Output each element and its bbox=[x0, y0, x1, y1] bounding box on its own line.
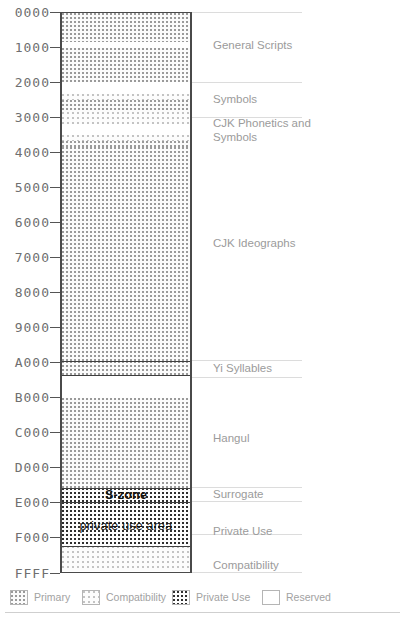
band-primary bbox=[62, 398, 190, 488]
axis-tick-label: D000 bbox=[0, 460, 50, 475]
region-label: General Scripts bbox=[213, 38, 292, 52]
region-separator-line bbox=[192, 82, 302, 83]
legend-swatch-private bbox=[172, 590, 190, 605]
bmp-allocation-chart: 0000100020003000400050006000700080009000… bbox=[0, 0, 405, 622]
legend-label: Primary bbox=[34, 591, 70, 603]
legend-divider bbox=[5, 612, 400, 613]
axis-tick-label: 4000 bbox=[0, 145, 50, 160]
axis-tick-mark bbox=[50, 292, 60, 293]
band-compat bbox=[62, 546, 190, 571]
legend-swatch-compat bbox=[82, 590, 100, 605]
band-primary bbox=[62, 13, 190, 42]
axis-tick-label: 7000 bbox=[0, 250, 50, 265]
band-boundary-rule bbox=[62, 375, 190, 376]
band-compat bbox=[62, 112, 190, 124]
band-primary bbox=[62, 361, 190, 375]
band-boundary-rule bbox=[62, 546, 190, 547]
region-label: Private Use bbox=[213, 524, 272, 538]
region-label: Yi Syllables bbox=[213, 361, 272, 375]
axis-tick-label: 2000 bbox=[0, 75, 50, 90]
region-separator-line bbox=[192, 12, 302, 13]
band-reserved bbox=[62, 124, 190, 135]
axis-tick-label: 5000 bbox=[0, 180, 50, 195]
band-primary bbox=[62, 147, 190, 361]
region-separator-line bbox=[192, 572, 302, 573]
axis-tick-mark bbox=[50, 502, 60, 503]
axis-tick-mark bbox=[50, 573, 60, 574]
region-separator-line bbox=[192, 377, 302, 378]
axis-tick-mark bbox=[50, 467, 60, 468]
codepoint-bar: S-zoneprivate use area bbox=[60, 12, 192, 573]
band-reserved bbox=[62, 82, 190, 94]
legend-swatch-reserved bbox=[262, 590, 280, 605]
axis-tick-mark bbox=[50, 152, 60, 153]
axis-tick-mark bbox=[50, 12, 60, 13]
axis-tick-label: C000 bbox=[0, 425, 50, 440]
axis-tick-label: F000 bbox=[0, 530, 50, 545]
legend-label: Compatibility bbox=[106, 591, 166, 603]
region-label: CJK Phonetics and Symbols bbox=[213, 116, 311, 144]
axis-tick-mark bbox=[50, 537, 60, 538]
band-primary bbox=[62, 100, 190, 112]
axis-tick-label: FFFF bbox=[0, 566, 50, 581]
region-label: Symbols bbox=[213, 92, 257, 106]
region-label: CJK Ideographs bbox=[213, 236, 295, 250]
axis-tick-mark bbox=[50, 257, 60, 258]
legend-swatch-primary bbox=[10, 590, 28, 605]
axis-tick-label: 3000 bbox=[0, 110, 50, 125]
bar-inline-label-szone: S-zone bbox=[62, 488, 190, 502]
band-primary bbox=[62, 48, 190, 82]
axis-tick-label: E000 bbox=[0, 495, 50, 510]
axis-tick-label: 8000 bbox=[0, 285, 50, 300]
bar-inline-label-pua: private use area bbox=[62, 519, 190, 533]
legend-label: Private Use bbox=[196, 591, 250, 603]
band-boundary-rule bbox=[62, 361, 190, 362]
axis-tick-mark bbox=[50, 82, 60, 83]
axis-tick-mark bbox=[50, 117, 60, 118]
region-label: Hangul bbox=[213, 431, 249, 445]
region-label: Surrogate bbox=[213, 487, 264, 501]
axis-tick-mark bbox=[50, 327, 60, 328]
axis-tick-label: 9000 bbox=[0, 320, 50, 335]
axis-tick-mark bbox=[50, 222, 60, 223]
axis-tick-mark bbox=[50, 432, 60, 433]
axis-tick-label: 0000 bbox=[0, 5, 50, 20]
axis-tick-mark bbox=[50, 187, 60, 188]
legend-label: Reserved bbox=[286, 591, 331, 603]
region-separator-line bbox=[192, 501, 302, 502]
legend: PrimaryCompatibilityPrivate UseReserved bbox=[0, 588, 405, 622]
axis-tick-mark bbox=[50, 362, 60, 363]
band-reserved bbox=[62, 375, 190, 398]
band-boundary-rule bbox=[62, 502, 190, 503]
axis-tick-label: A000 bbox=[0, 355, 50, 370]
axis-tick-mark bbox=[50, 397, 60, 398]
axis-tick-mark bbox=[50, 47, 60, 48]
axis-tick-label: 1000 bbox=[0, 40, 50, 55]
region-label: Compatibility bbox=[213, 558, 279, 572]
axis-tick-label: 6000 bbox=[0, 215, 50, 230]
axis-tick-label: B000 bbox=[0, 390, 50, 405]
